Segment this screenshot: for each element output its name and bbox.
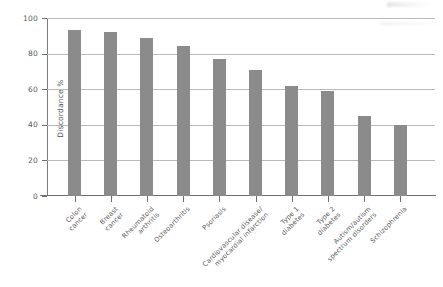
x-axis-tick-label-line: Psoriasis bbox=[201, 205, 228, 232]
bar bbox=[249, 70, 262, 196]
gridline bbox=[47, 18, 435, 19]
bar bbox=[104, 32, 117, 196]
y-axis-title: Discordance % bbox=[56, 49, 65, 169]
y-axis-tick-label: 40 bbox=[28, 120, 38, 129]
x-axis-tick bbox=[292, 196, 293, 202]
x-axis-tick-label-text: Coloncancer bbox=[61, 205, 89, 233]
plot-area: Discordance % bbox=[47, 18, 435, 196]
y-axis-tick bbox=[42, 54, 47, 55]
bar bbox=[68, 30, 81, 196]
y-axis-tick bbox=[42, 125, 47, 126]
x-axis-tick bbox=[111, 196, 112, 202]
y-axis-tick bbox=[42, 160, 47, 161]
bar bbox=[358, 116, 371, 196]
x-axis-tick bbox=[75, 196, 76, 202]
y-axis-tick-label-wrap: 80 bbox=[14, 49, 38, 58]
x-axis-tick bbox=[328, 196, 329, 202]
y-axis-tick-label-wrap: 60 bbox=[14, 85, 38, 94]
x-axis-tick-label-text: Psoriasis bbox=[201, 205, 228, 232]
x-axis-tick bbox=[256, 196, 257, 202]
y-axis-tick-label: 80 bbox=[28, 49, 38, 58]
y-axis-tick-label: 0 bbox=[33, 192, 38, 201]
y-axis-tick-label-wrap: 40 bbox=[14, 120, 38, 129]
y-axis-tick-label: 100 bbox=[23, 14, 38, 23]
x-axis-tick-label-text: Breastcancer bbox=[97, 205, 125, 233]
x-axis-tick-label-text: Type 1diabetes bbox=[274, 205, 307, 238]
bar bbox=[140, 38, 153, 196]
y-axis-tick bbox=[42, 18, 47, 19]
y-axis-tick-label-wrap: 20 bbox=[14, 156, 38, 165]
x-axis-tick bbox=[219, 196, 220, 202]
y-axis-tick-label-wrap: 0 bbox=[14, 192, 38, 201]
bar bbox=[177, 46, 190, 196]
x-axis-tick bbox=[183, 196, 184, 202]
y-axis-tick bbox=[42, 89, 47, 90]
scan-artifact bbox=[387, 2, 433, 7]
y-axis-tick-label: 20 bbox=[28, 156, 38, 165]
y-axis-tick-label: 60 bbox=[28, 85, 38, 94]
y-axis-tick-label-wrap: 100 bbox=[14, 14, 38, 23]
bar bbox=[321, 91, 334, 196]
x-axis-tick bbox=[364, 196, 365, 202]
y-axis-tick bbox=[42, 196, 47, 197]
x-axis-tick-label-line: Cardiovascular disease/ bbox=[201, 205, 265, 269]
x-axis-tick bbox=[147, 196, 148, 202]
x-axis-tick bbox=[400, 196, 401, 202]
